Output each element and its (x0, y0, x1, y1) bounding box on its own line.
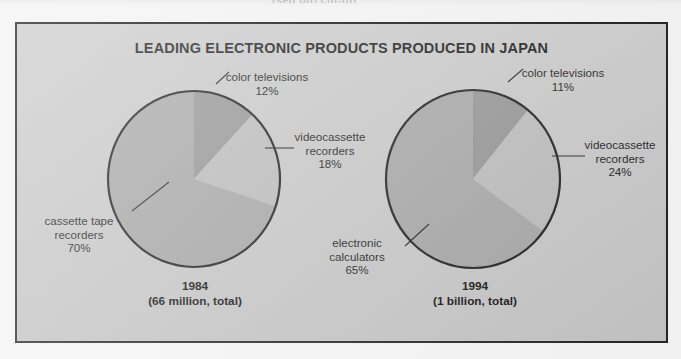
label-color-televisions-1994-value: 11% (493, 80, 633, 94)
label-electronic-calculators-1994-value: 65% (305, 263, 409, 277)
figure-frame: LEADING ELECTRONIC PRODUCTS PRODUCED IN … (15, 22, 668, 343)
label-videocassette-recorders-1994-name1: videocassette (559, 138, 681, 152)
label-electronic-calculators-1994-name2: calculators (305, 250, 409, 264)
page-bleedthrough-text: (sed gg) cut-off (272, 0, 357, 3)
caption-1994: 1994 (1 billion, total) (395, 279, 555, 308)
caption-1994-year: 1994 (395, 279, 555, 294)
label-videocassette-recorders-1994: videocassette recorders 24% (559, 138, 681, 179)
label-electronic-calculators-1994: electronic calculators 65% (305, 236, 409, 277)
label-videocassette-recorders-1994-value: 24% (559, 165, 681, 179)
scanned-page: (sed gg) cut-off LEADING ELECTRONIC PROD… (0, 0, 681, 359)
label-videocassette-recorders-1994-name2: recorders (559, 152, 681, 166)
label-color-televisions-1994-name: color televisions (493, 66, 633, 80)
label-electronic-calculators-1994-name1: electronic (305, 236, 409, 250)
caption-1994-total: (1 billion, total) (395, 294, 555, 309)
label-color-televisions-1994: color televisions 11% (493, 66, 633, 93)
